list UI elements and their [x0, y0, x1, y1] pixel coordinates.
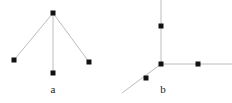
panel-b-graph [122, 0, 232, 93]
panel-label-a: a [43, 84, 63, 95]
node-apex [51, 11, 56, 16]
panel-a-nodes [12, 11, 92, 76]
node-junction [159, 62, 164, 67]
node-leaf-center [51, 71, 56, 76]
panel-b-rays [122, 0, 232, 93]
node-node-lower-left [144, 76, 149, 81]
panel-label-b: b [153, 84, 173, 95]
node-leaf-right [87, 60, 92, 65]
figure-container: a b [0, 0, 232, 103]
edge-apex-leaf-right [53, 13, 89, 62]
node-node-right [196, 62, 201, 67]
panel-a-edges [14, 13, 89, 73]
node-leaf-left [12, 58, 17, 63]
graph-figure [0, 0, 232, 103]
edge-apex-leaf-left [14, 13, 53, 60]
panel-b-nodes [144, 24, 201, 81]
node-node-up [159, 24, 164, 29]
panel-a-graph [12, 11, 92, 76]
